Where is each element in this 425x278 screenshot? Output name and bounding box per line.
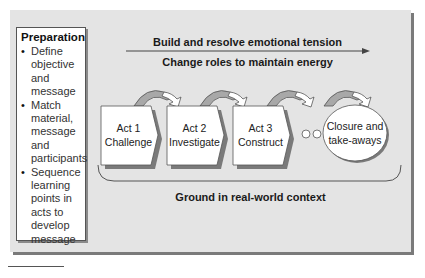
preparation-list: Define objective and message Match mater… (21, 45, 81, 246)
caption-rule (8, 266, 64, 267)
act-2-label: Act 2 Investigate (167, 121, 222, 149)
act-1-label: Act 1 Challenge (101, 121, 156, 149)
curved-arrow-icon (267, 91, 314, 107)
continuation-dots (302, 130, 321, 138)
roles-label: Change roles to maintain energy (125, 56, 370, 68)
context-label: Ground in real-world context (98, 191, 403, 203)
closure-label: Closure and take-aways (321, 119, 389, 147)
preparation-item: Define objective and message (21, 45, 81, 99)
act-3-label: Act 3 Construct (233, 121, 288, 149)
curved-arrow-icon (134, 91, 181, 107)
tension-label: Build and resolve emotional tension (125, 36, 370, 48)
preparation-item: Match material, message and participants (21, 99, 81, 166)
preparation-title: Preparation (21, 31, 81, 44)
curved-arrow-icon (324, 91, 371, 107)
preparation-item: Sequence learning points in acts to deve… (21, 166, 81, 246)
tension-arrow (126, 48, 370, 54)
preparation-box: Preparation Define objective and message… (16, 27, 86, 241)
curved-arrow-icon (200, 91, 247, 107)
role-change-arrows (134, 91, 371, 107)
